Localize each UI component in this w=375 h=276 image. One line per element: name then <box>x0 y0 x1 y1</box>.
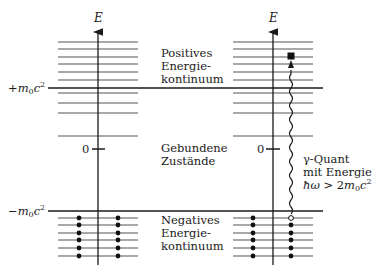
region-labels: Positives Energie- kontinuum Gebundene Z… <box>161 46 231 253</box>
photon-energy-condition: ħω > 2m0c2 <box>303 177 372 193</box>
left-zero-label: 0 <box>82 142 89 156</box>
left-axis-label: E <box>93 11 103 25</box>
plus-m0c2-label: +m0c2 <box>8 80 45 96</box>
hole-icon <box>289 216 294 221</box>
right-axis-label: E <box>268 11 278 25</box>
right-energy-diagram: E 0 γ-Quant mit Energie ħω > 2m0c2 <box>233 11 372 265</box>
photon-label: γ-Quant mit Energie <box>303 152 372 179</box>
negative-continuum-label: Negatives Energie- kontinuum <box>161 213 224 253</box>
bound-states-label: Gebundene Zustände <box>161 141 231 168</box>
minus-m0c2-label: −m0c2 <box>8 203 45 219</box>
electron-excited-icon <box>288 53 295 60</box>
dirac-sea-diagram: E 0 +m0c2 −m0c2 Positives Energie- konti… <box>0 0 375 276</box>
positive-continuum-label: Positives Energie- kontinuum <box>161 46 224 86</box>
right-electrons <box>251 216 294 259</box>
left-energy-diagram: E 0 +m0c2 −m0c2 <box>8 11 138 265</box>
right-zero-label: 0 <box>257 142 264 156</box>
photon-wave-icon <box>290 70 293 214</box>
